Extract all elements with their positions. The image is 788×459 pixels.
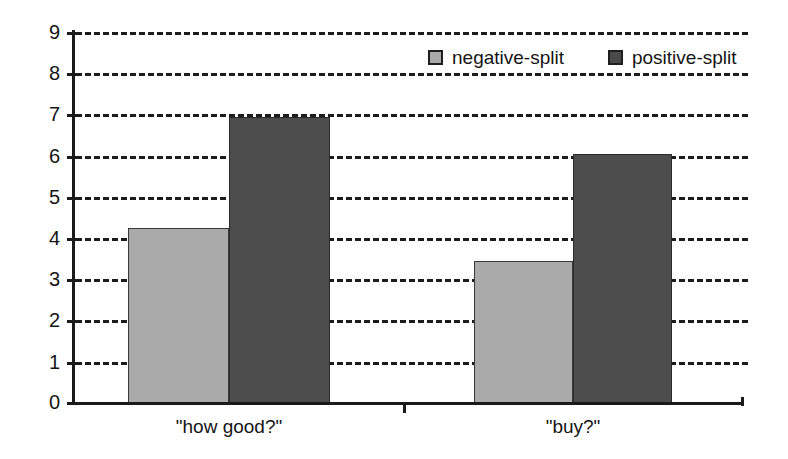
- legend-item-negative-split: negative-split: [428, 48, 564, 67]
- legend-item-positive-split: positive-split: [608, 48, 737, 67]
- x-axis-label-how-good: "how good?": [159, 416, 299, 438]
- legend-label-positive-split: positive-split: [632, 48, 737, 67]
- legend-swatch-negative-split: [428, 50, 443, 65]
- x-axis-end-tick: [741, 397, 744, 406]
- x-axis-line: [74, 402, 744, 405]
- x-tick-group-divider: [403, 405, 406, 413]
- chart-legend: negative-split positive-split: [428, 45, 737, 69]
- y-axis-line: [72, 30, 75, 405]
- bar-buy-negative-split: [474, 261, 573, 403]
- legend-swatch-positive-split: [608, 50, 623, 65]
- legend-label-negative-split: negative-split: [452, 48, 564, 67]
- bar-how-good-negative-split: [128, 228, 229, 403]
- bar-how-good-positive-split: [229, 117, 330, 403]
- bar-buy-positive-split: [573, 154, 672, 403]
- bar-chart: 9 8 7 6 5 4 3 2 1 0 "how good?" "buy?" n…: [0, 0, 788, 459]
- x-axis-label-buy: "buy?": [503, 416, 643, 438]
- bars-layer: [0, 32, 788, 403]
